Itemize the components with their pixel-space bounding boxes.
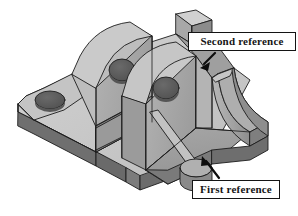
callout-first-reference: First reference — [192, 180, 280, 199]
callout-second-reference: Second reference — [188, 32, 296, 51]
front-rib-left-face — [122, 96, 146, 170]
left-flange-hole — [35, 91, 65, 109]
cad-figure: Second reference First reference — [0, 0, 298, 216]
callout-second-reference-label: Second reference — [200, 36, 283, 47]
callout-first-reference-label: First reference — [200, 184, 272, 195]
front-rib-hole — [153, 77, 179, 99]
